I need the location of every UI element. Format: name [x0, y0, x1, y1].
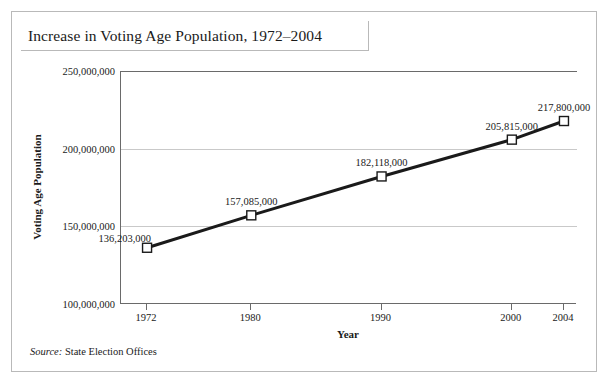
- series-line: [147, 121, 564, 248]
- y-tick-label: 200,000,000: [63, 143, 116, 154]
- x-tick-mark: [146, 304, 147, 310]
- data-point-label: 217,800,000: [538, 102, 591, 113]
- x-tick-label: 2000: [500, 312, 521, 323]
- data-point-marker: [377, 172, 386, 181]
- x-axis-title: Year: [120, 328, 576, 340]
- source-label: Source:: [30, 346, 62, 357]
- source-value: State Election Offices: [62, 346, 157, 357]
- data-point-marker: [247, 211, 256, 220]
- data-point-label: 182,118,000: [356, 157, 408, 168]
- y-tick-label: 100,000,000: [63, 299, 116, 310]
- x-tick-mark: [563, 304, 564, 310]
- x-tick-label: 1972: [136, 312, 157, 323]
- data-point-label: 136,203,000: [99, 233, 152, 244]
- x-tick-label: 1990: [370, 312, 391, 323]
- data-point-label: 205,815,000: [486, 121, 539, 132]
- y-tick-label: 150,000,000: [63, 221, 116, 232]
- data-point-marker: [559, 117, 568, 126]
- x-tick-mark: [250, 304, 251, 310]
- x-tick-mark: [381, 304, 382, 310]
- y-tick-label: 250,000,000: [63, 66, 116, 77]
- x-tick-label: 1980: [240, 312, 261, 323]
- data-point-marker: [143, 243, 152, 252]
- y-axis-title: Voting Age Population: [31, 134, 43, 239]
- x-tick-mark: [511, 304, 512, 310]
- series-voting-age-population: [121, 71, 577, 304]
- data-point-label: 157,085,000: [225, 196, 278, 207]
- plot-area: 100,000,000150,000,000200,000,000250,000…: [120, 71, 576, 304]
- x-tick-label: 2004: [552, 312, 573, 323]
- plot-wrapper: Voting Age Population 100,000,000150,000…: [12, 12, 598, 373]
- figure-frame: Increase in Voting Age Population, 1972–…: [11, 11, 597, 372]
- data-point-marker: [507, 135, 516, 144]
- source-note: Source: State Election Offices: [30, 346, 157, 357]
